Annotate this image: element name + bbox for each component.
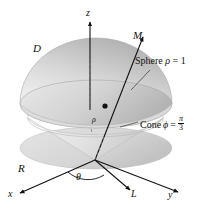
angle-label-theta: θ: [76, 172, 81, 182]
ray-label-M: M: [133, 30, 142, 41]
region-label-R: R: [18, 163, 25, 174]
ray-label-L: L: [131, 189, 137, 199]
spherical-coordinates-diagram: [0, 0, 223, 210]
annotation-cone-equals: =: [170, 120, 176, 130]
annotation-sphere-equals: = 1: [170, 55, 186, 66]
annotation-cone-fraction: π3: [178, 115, 184, 132]
fraction-numerator: π: [178, 115, 184, 123]
axis-label-x: x: [8, 189, 12, 199]
annotation-sphere: Sphere ρ = 1: [135, 56, 186, 66]
annotation-cone-symbol: ϕ: [163, 120, 168, 130]
region-label-D: D: [33, 43, 41, 54]
axis-label-z: z: [86, 8, 90, 18]
point-on-sphere: [102, 103, 107, 108]
annotation-cone: Cone ϕ = π3: [140, 116, 184, 133]
annotation-sphere-prefix: Sphere: [135, 55, 165, 66]
radius-label-rho: ρ: [92, 116, 96, 124]
annotation-cone-prefix: Cone: [140, 120, 161, 130]
axis-label-y: y: [168, 190, 172, 200]
theta-arc: [68, 172, 104, 180]
fraction-denominator: 3: [178, 123, 184, 132]
